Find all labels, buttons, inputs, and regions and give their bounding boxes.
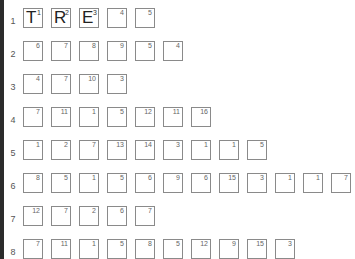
cell-clue-number: 7 bbox=[64, 42, 68, 50]
letter-cell[interactable]: R2 bbox=[51, 8, 71, 28]
letter-cell[interactable]: 6 bbox=[23, 41, 43, 61]
row-cells: 47103 bbox=[23, 74, 135, 94]
letter-cell[interactable]: 5 bbox=[247, 140, 267, 160]
puzzle-row-6: 68515696153117 bbox=[6, 172, 355, 194]
letter-cell[interactable]: 7 bbox=[51, 74, 71, 94]
letter-cell[interactable]: 14 bbox=[135, 140, 155, 160]
row-number-label: 6 bbox=[6, 181, 20, 191]
cell-clue-number: 5 bbox=[120, 174, 124, 182]
cell-clue-number: 1 bbox=[288, 174, 292, 182]
letter-cell[interactable]: 5 bbox=[107, 173, 127, 193]
letter-cell[interactable]: 1 bbox=[23, 140, 43, 160]
cell-clue-number: 1 bbox=[204, 141, 208, 149]
letter-cell[interactable]: 2 bbox=[51, 140, 71, 160]
row-cells: 678954 bbox=[23, 41, 191, 61]
cell-clue-number: 2 bbox=[64, 141, 68, 149]
cell-clue-number: 7 bbox=[36, 108, 40, 116]
letter-cell[interactable]: 7 bbox=[79, 140, 99, 160]
letter-cell[interactable]: 3 bbox=[107, 74, 127, 94]
cell-clue-number: 1 bbox=[36, 141, 40, 149]
cell-clue-number: 7 bbox=[148, 207, 152, 215]
letter-cell[interactable]: 12 bbox=[191, 239, 211, 259]
cell-clue-number: 3 bbox=[93, 9, 97, 17]
letter-cell[interactable]: 5 bbox=[51, 173, 71, 193]
letter-cell[interactable]: 3 bbox=[163, 140, 183, 160]
cell-clue-number: 9 bbox=[232, 240, 236, 248]
letter-cell[interactable]: 3 bbox=[275, 239, 295, 259]
row-number-label: 5 bbox=[6, 148, 20, 158]
letter-cell[interactable]: 9 bbox=[107, 41, 127, 61]
letter-cell[interactable]: 4 bbox=[23, 74, 43, 94]
letter-cell[interactable]: 15 bbox=[219, 173, 239, 193]
cell-clue-number: 5 bbox=[120, 240, 124, 248]
cell-letter: E bbox=[82, 9, 93, 27]
letter-cell[interactable]: 1 bbox=[79, 173, 99, 193]
row-number-label: 7 bbox=[6, 214, 20, 224]
puzzle-row-2: 2678954 bbox=[6, 40, 191, 62]
cell-clue-number: 1 bbox=[92, 240, 96, 248]
cell-clue-number: 4 bbox=[36, 75, 40, 83]
letter-cell[interactable]: 2 bbox=[79, 206, 99, 226]
cell-clue-number: 7 bbox=[64, 75, 68, 83]
letter-cell[interactable]: 8 bbox=[23, 173, 43, 193]
letter-cell[interactable]: 12 bbox=[135, 107, 155, 127]
letter-cell[interactable]: 9 bbox=[163, 173, 183, 193]
letter-cell[interactable]: 1 bbox=[79, 107, 99, 127]
row-cells: 12713143115 bbox=[23, 140, 275, 160]
letter-cell[interactable]: 7 bbox=[51, 206, 71, 226]
letter-cell[interactable]: 5 bbox=[163, 239, 183, 259]
cell-clue-number: 3 bbox=[176, 141, 180, 149]
cell-clue-number: 11 bbox=[61, 240, 68, 248]
letter-cell[interactable]: T1 bbox=[23, 8, 43, 28]
letter-cell[interactable]: 5 bbox=[107, 107, 127, 127]
letter-cell[interactable]: 7 bbox=[23, 239, 43, 259]
letter-cell[interactable]: 1 bbox=[219, 140, 239, 160]
letter-cell[interactable]: 11 bbox=[51, 107, 71, 127]
row-cells: 7111585129153 bbox=[23, 239, 303, 259]
letter-cell[interactable]: 1 bbox=[79, 239, 99, 259]
letter-cell[interactable]: 8 bbox=[135, 239, 155, 259]
letter-cell[interactable]: 13 bbox=[107, 140, 127, 160]
cell-clue-number: 6 bbox=[148, 174, 152, 182]
letter-cell[interactable]: E3 bbox=[79, 8, 99, 28]
letter-cell[interactable]: 11 bbox=[163, 107, 183, 127]
letter-cell[interactable]: 7 bbox=[135, 206, 155, 226]
row-cells: 71115121116 bbox=[23, 107, 219, 127]
cell-clue-number: 7 bbox=[36, 240, 40, 248]
letter-cell[interactable]: 10 bbox=[79, 74, 99, 94]
letter-cell[interactable]: 9 bbox=[219, 239, 239, 259]
letter-cell[interactable]: 6 bbox=[107, 206, 127, 226]
letter-cell[interactable]: 5 bbox=[135, 8, 155, 28]
letter-cell[interactable]: 16 bbox=[191, 107, 211, 127]
cell-clue-number: 5 bbox=[260, 141, 264, 149]
cell-clue-number: 1 bbox=[316, 174, 320, 182]
letter-cell[interactable]: 7 bbox=[51, 41, 71, 61]
cell-clue-number: 2 bbox=[65, 9, 69, 17]
letter-cell[interactable]: 12 bbox=[23, 206, 43, 226]
puzzle-row-5: 512713143115 bbox=[6, 139, 275, 161]
cell-clue-number: 9 bbox=[120, 42, 124, 50]
cell-clue-number: 5 bbox=[176, 240, 180, 248]
cell-clue-number: 5 bbox=[120, 108, 124, 116]
letter-cell[interactable]: 3 bbox=[247, 173, 267, 193]
letter-cell[interactable]: 7 bbox=[331, 173, 351, 193]
letter-cell[interactable]: 5 bbox=[107, 239, 127, 259]
row-cells: T1R2E345 bbox=[23, 8, 163, 28]
letter-cell[interactable]: 5 bbox=[135, 41, 155, 61]
letter-cell[interactable]: 1 bbox=[275, 173, 295, 193]
letter-cell[interactable]: 4 bbox=[163, 41, 183, 61]
letter-cell[interactable]: 15 bbox=[247, 239, 267, 259]
cell-clue-number: 3 bbox=[120, 75, 124, 83]
cell-clue-number: 11 bbox=[173, 108, 180, 116]
letter-cell[interactable]: 6 bbox=[135, 173, 155, 193]
letter-cell[interactable]: 11 bbox=[51, 239, 71, 259]
letter-cell[interactable]: 1 bbox=[191, 140, 211, 160]
letter-cell[interactable]: 1 bbox=[303, 173, 323, 193]
cell-clue-number: 15 bbox=[228, 174, 236, 182]
letter-cell[interactable]: 6 bbox=[191, 173, 211, 193]
row-number-label: 4 bbox=[6, 115, 20, 125]
letter-cell[interactable]: 7 bbox=[23, 107, 43, 127]
letter-cell[interactable]: 8 bbox=[79, 41, 99, 61]
row-cells: 127267 bbox=[23, 206, 163, 226]
letter-cell[interactable]: 4 bbox=[107, 8, 127, 28]
